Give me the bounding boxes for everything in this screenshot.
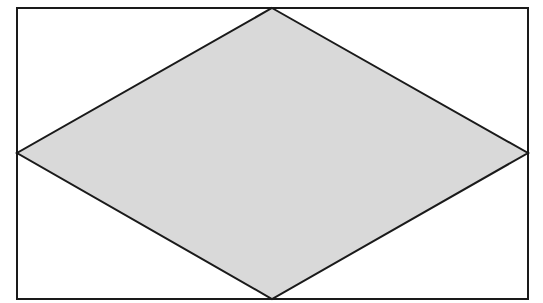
diagram-canvas — [0, 0, 543, 303]
diagram-svg — [0, 0, 543, 303]
